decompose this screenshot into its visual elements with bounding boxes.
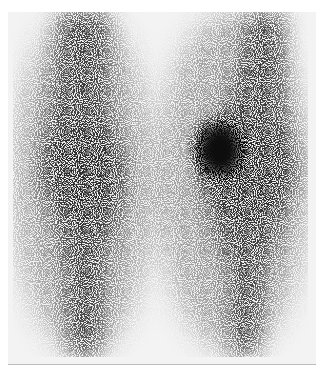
scan-image: [8, 12, 316, 365]
scan-svg: [8, 12, 316, 365]
hot-spot: [200, 126, 240, 174]
tracer-uptake: [13, 12, 308, 357]
frame-bottom-edge: [8, 364, 316, 365]
